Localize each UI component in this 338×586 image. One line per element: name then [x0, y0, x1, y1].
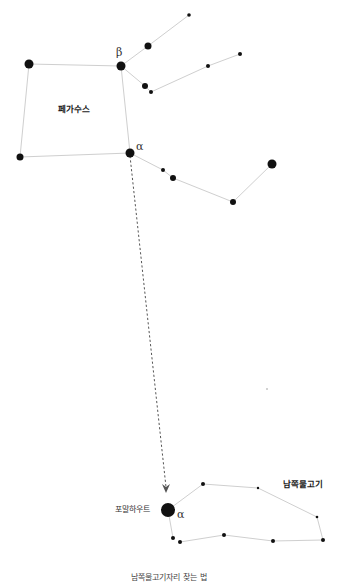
constellation-line — [180, 535, 224, 542]
star-p8 — [171, 536, 175, 540]
constellation-line — [317, 517, 323, 540]
star-bl — [17, 154, 24, 161]
star-alpha — [126, 149, 135, 158]
star-p2 — [257, 487, 259, 489]
star-u2 — [187, 13, 191, 17]
constellation-line — [29, 64, 121, 66]
constellation-line — [173, 178, 233, 202]
star-p1 — [201, 482, 205, 486]
alpha-pegasus-label: α — [136, 141, 143, 152]
constellation-line — [208, 54, 240, 66]
constellation-lines — [20, 15, 323, 542]
star-p5 — [271, 539, 275, 543]
constellation-line — [233, 164, 272, 202]
constellation-line — [273, 540, 323, 541]
star-p3 — [316, 516, 319, 519]
constellation-line — [121, 46, 148, 66]
constellation-line — [224, 535, 273, 541]
star-tl — [25, 60, 34, 69]
star-p6 — [222, 533, 226, 537]
guide-pointer — [130, 156, 170, 493]
constellation-line — [130, 153, 163, 170]
star-p7 — [178, 540, 182, 544]
star-m2 — [149, 90, 153, 94]
diagram-caption: 남쪽물고기자리 찾는 법 — [0, 571, 338, 582]
alpha-fomalhaut-label: α — [177, 509, 184, 520]
piscis-austrinus-label: 남쪽물고기 — [283, 480, 323, 489]
star-l4 — [268, 160, 277, 169]
fomalhaut-label: 포말하우트 — [115, 506, 150, 514]
constellation-line — [258, 488, 317, 517]
constellation-line — [20, 64, 29, 157]
constellation-line — [151, 66, 208, 92]
pegasus-label: 페가수스 — [58, 105, 90, 114]
constellation-line — [121, 66, 130, 153]
faint-star — [266, 388, 268, 390]
star-u1 — [145, 43, 152, 50]
constellation-line — [148, 15, 189, 46]
star-beta — [117, 62, 126, 71]
stars — [17, 13, 326, 544]
star-l1 — [161, 168, 165, 172]
star-p4 — [321, 538, 325, 542]
constellation-line — [20, 153, 130, 157]
constellation-line — [203, 484, 258, 488]
star-chart — [0, 0, 338, 586]
dashed-pointer-line — [130, 156, 166, 487]
star-m3 — [206, 64, 210, 68]
constellation-line — [121, 66, 145, 86]
star-l2 — [170, 175, 176, 181]
star-l3 — [230, 199, 236, 205]
star-m1 — [142, 83, 148, 89]
star-m4 — [238, 52, 242, 56]
star-fomalhaut — [161, 503, 175, 517]
beta-label: β — [116, 47, 122, 58]
